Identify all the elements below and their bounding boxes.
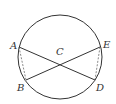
label-E: E	[103, 40, 110, 50]
label-C: C	[56, 47, 64, 57]
label-D: D	[96, 83, 104, 93]
label-A: A	[10, 41, 17, 51]
label-B: B	[17, 83, 24, 93]
geometry-diagram: A B C D E	[0, 0, 116, 104]
circle	[18, 15, 102, 99]
